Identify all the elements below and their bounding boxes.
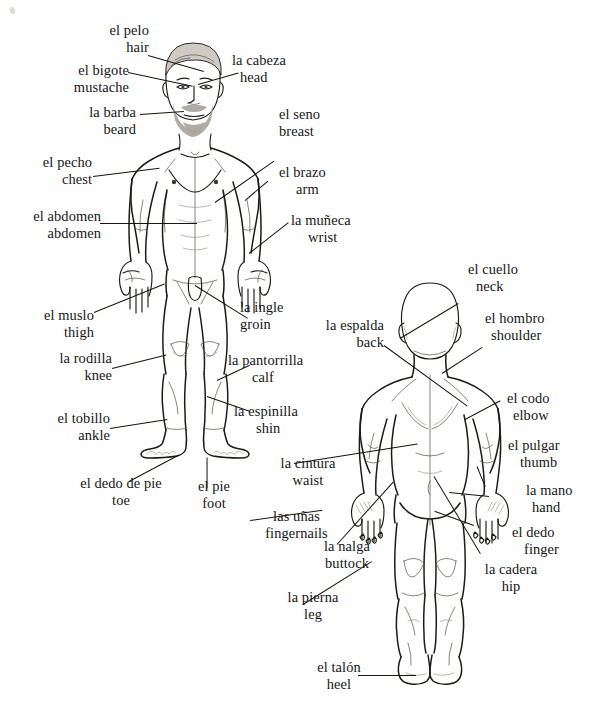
- label-back-es: la espalda: [308, 317, 384, 334]
- label-calf-es: la pantorrilla: [228, 352, 326, 369]
- label-knee-es: la rodilla: [30, 350, 112, 367]
- label-abdomen-es: el abdomen: [6, 208, 101, 225]
- label-toe-es: el dedo de pie: [58, 475, 184, 492]
- label-head-en: head: [232, 69, 322, 86]
- label-wrist: la muñeca wrist: [291, 212, 375, 245]
- label-breast: el seno breast: [279, 106, 349, 139]
- label-foot-es: el pie: [188, 478, 240, 495]
- label-groin-es: la ingle: [240, 299, 308, 316]
- label-toe-en: toe: [58, 492, 184, 509]
- label-thumb: el pulgar thumb: [508, 437, 576, 470]
- label-mustache: el bigote mustache: [22, 62, 129, 95]
- label-abdomen: el abdomen abdomen: [6, 208, 101, 241]
- label-chest: el pecho chest: [20, 154, 92, 187]
- label-hip: la cadera hip: [474, 561, 548, 594]
- label-buttock-es: la nalga: [306, 538, 388, 555]
- label-heel-en: heel: [300, 676, 378, 693]
- label-head-es: la cabeza: [232, 52, 322, 69]
- label-fingernails: las uñas fingernails: [244, 508, 349, 541]
- label-back-en: back: [308, 334, 384, 351]
- label-mustache-en: mustache: [22, 79, 129, 96]
- label-fingernails-es: las uñas: [244, 508, 349, 525]
- label-beard-es: la barba: [30, 104, 136, 121]
- label-calf: la pantorrilla calf: [228, 352, 326, 385]
- anatomy-diagram-page: el pelo hair el bigote mustache la barba…: [0, 0, 591, 711]
- label-hand: la mano hand: [526, 482, 590, 515]
- label-wrist-en: wrist: [291, 229, 375, 246]
- label-abdomen-en: abdomen: [6, 225, 101, 242]
- label-neck: el cuello neck: [468, 261, 540, 294]
- label-finger-en: finger: [512, 541, 574, 558]
- label-groin-en: groin: [240, 316, 308, 333]
- label-groin: la ingle groin: [240, 299, 308, 332]
- label-hair: el pelo hair: [44, 22, 149, 55]
- label-beard-en: beard: [30, 121, 136, 138]
- label-leg-en: leg: [275, 606, 351, 623]
- label-waist-en: waist: [266, 472, 350, 489]
- label-thumb-en: thumb: [508, 454, 576, 471]
- label-neck-en: neck: [468, 278, 540, 295]
- scan-smudge-artifact: [9, 6, 16, 14]
- label-back: la espalda back: [308, 317, 384, 350]
- label-breast-en: breast: [279, 123, 349, 140]
- label-thigh-es: el muslo: [18, 307, 94, 324]
- label-arm-es: el brazo: [279, 164, 351, 181]
- label-hip-es: la cadera: [474, 561, 548, 578]
- label-thigh: el muslo thigh: [18, 307, 94, 340]
- label-ankle: el tobillo ankle: [36, 410, 110, 443]
- label-knee-en: knee: [30, 367, 112, 384]
- label-hair-es: el pelo: [44, 22, 149, 39]
- leader-line-abdomen: [100, 223, 197, 224]
- label-buttock: la nalga buttock: [306, 538, 388, 571]
- label-arm-en: arm: [279, 181, 351, 198]
- label-hip-en: hip: [474, 578, 548, 595]
- label-finger: el dedo finger: [512, 524, 574, 557]
- label-finger-es: el dedo: [512, 524, 574, 541]
- label-shin-es: la espinilla: [234, 403, 324, 420]
- label-shin: la espinilla shin: [234, 403, 324, 436]
- label-ankle-es: el tobillo: [36, 410, 110, 427]
- label-thigh-en: thigh: [18, 324, 94, 341]
- label-beard: la barba beard: [30, 104, 136, 137]
- label-shoulder-es: el hombro: [485, 310, 565, 327]
- label-chest-en: chest: [20, 171, 92, 188]
- label-ankle-en: ankle: [36, 427, 110, 444]
- label-elbow: el codo elbow: [507, 390, 569, 423]
- label-wrist-es: la muñeca: [291, 212, 375, 229]
- label-knee: la rodilla knee: [30, 350, 112, 383]
- label-arm: el brazo arm: [279, 164, 351, 197]
- label-neck-es: el cuello: [468, 261, 540, 278]
- label-heel: el talón heel: [300, 659, 378, 692]
- label-chest-es: el pecho: [20, 154, 92, 171]
- label-head: la cabeza head: [232, 52, 322, 85]
- label-leg: la pierna leg: [275, 589, 351, 622]
- label-toe: el dedo de pie toe: [58, 475, 184, 508]
- label-leg-es: la pierna: [275, 589, 351, 606]
- label-buttock-en: buttock: [306, 555, 388, 572]
- label-mustache-es: el bigote: [22, 62, 129, 79]
- label-foot: el pie foot: [188, 478, 240, 511]
- label-elbow-en: elbow: [507, 407, 569, 424]
- label-waist: la cintura waist: [266, 455, 350, 488]
- label-shoulder-en: shoulder: [485, 327, 565, 344]
- label-elbow-es: el codo: [507, 390, 569, 407]
- label-thumb-es: el pulgar: [508, 437, 576, 454]
- label-shoulder: el hombro shoulder: [485, 310, 565, 343]
- label-breast-es: el seno: [279, 106, 349, 123]
- label-heel-es: el talón: [300, 659, 378, 676]
- label-calf-en: calf: [228, 369, 326, 386]
- label-hand-en: hand: [526, 499, 590, 516]
- label-shin-en: shin: [234, 420, 324, 437]
- label-hair-en: hair: [44, 39, 149, 56]
- label-waist-es: la cintura: [266, 455, 350, 472]
- label-hand-es: la mano: [526, 482, 590, 499]
- label-foot-en: foot: [188, 495, 240, 512]
